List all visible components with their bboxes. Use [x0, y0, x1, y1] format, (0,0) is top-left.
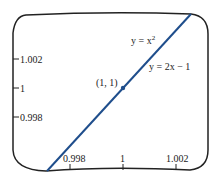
tangent-point: [121, 86, 125, 90]
x-tick-label-1.002: 1.002: [166, 153, 189, 164]
zoomed-graph: 1.002 1 0.998 0.998 1 1.002 (1, 1) y = x…: [0, 0, 224, 178]
curve-label-tangent: y = 2x − 1: [149, 61, 190, 72]
y-tick-label-0.998: 0.998: [20, 112, 43, 123]
curve-label-parabola-exponent: 2: [152, 34, 156, 42]
y-tick-label-1.002: 1.002: [20, 54, 43, 65]
curve-label-parabola-base: y = x: [131, 35, 152, 46]
point-label: (1, 1): [96, 77, 118, 89]
curve-line: [47, 14, 191, 171]
y-tick-label-1: 1: [20, 83, 25, 94]
curve-label-parabola: y = x2: [131, 34, 156, 46]
screen-frame: [13, 13, 208, 171]
x-tick-label-0.998: 0.998: [63, 153, 86, 164]
x-tick-label-1: 1: [120, 153, 125, 164]
